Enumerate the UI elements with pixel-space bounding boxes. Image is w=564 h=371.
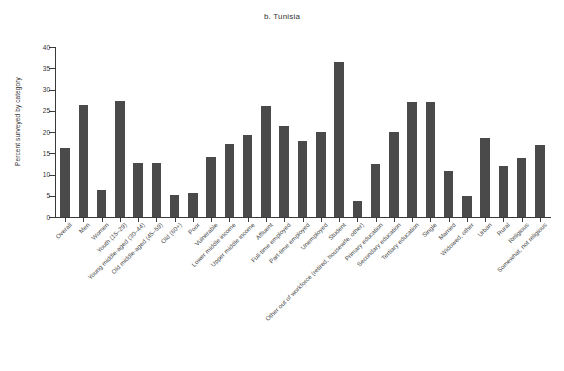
x-axis-labels: OverallMenWomenYouth (15–29)Young middle… <box>0 219 564 369</box>
bar <box>535 145 545 217</box>
plot-area: 0510152025303540 <box>56 47 549 217</box>
bar <box>243 135 253 217</box>
bar <box>316 132 326 217</box>
x-axis-tick-label: Urban <box>476 221 493 238</box>
cropped-header-text <box>0 0 564 5</box>
x-axis-tick-label: Rural <box>496 221 512 237</box>
y-axis-tick-label: 35 <box>24 68 50 69</box>
y-axis-tick-label: 40 <box>24 47 50 48</box>
x-axis-tick-label: Widowed, other <box>439 221 475 257</box>
bar <box>152 163 162 217</box>
bar <box>334 62 344 217</box>
bar <box>115 101 125 217</box>
bar <box>371 164 381 217</box>
x-axis-tick-label: Overall <box>54 221 73 240</box>
bar <box>462 196 472 217</box>
x-axis-tick-label: Men <box>78 221 92 235</box>
bar <box>353 201 363 217</box>
bar <box>188 193 198 217</box>
y-axis-label: Percent surveyed by category <box>14 42 21 202</box>
y-axis-tick-label: 10 <box>24 174 50 175</box>
y-axis-tick-label: 15 <box>24 153 50 154</box>
bar <box>298 141 308 217</box>
bar <box>97 190 107 217</box>
y-axis-tick-label: 0 <box>24 217 50 218</box>
y-axis-tick-label: 30 <box>24 89 50 90</box>
bar <box>60 148 70 217</box>
x-axis-tick-label: Poor <box>187 221 201 235</box>
chart-figure: b. Tunisia Percent surveyed by category … <box>0 0 564 371</box>
bar <box>279 126 289 217</box>
y-axis-tick-label: 5 <box>24 195 50 196</box>
bar <box>407 102 417 217</box>
bar <box>499 166 509 217</box>
y-axis-tick-label: 25 <box>24 110 50 111</box>
bar <box>389 132 399 217</box>
bar <box>480 138 490 217</box>
chart-title: b. Tunisia <box>0 12 564 21</box>
bar <box>261 106 271 217</box>
y-axis-tick-label: 20 <box>24 132 50 133</box>
bar <box>225 144 235 217</box>
bar <box>79 105 89 217</box>
bar <box>517 158 527 218</box>
bar <box>444 171 454 217</box>
bar <box>426 102 436 217</box>
bar <box>206 157 216 217</box>
bar <box>133 163 143 217</box>
bar <box>170 195 180 217</box>
